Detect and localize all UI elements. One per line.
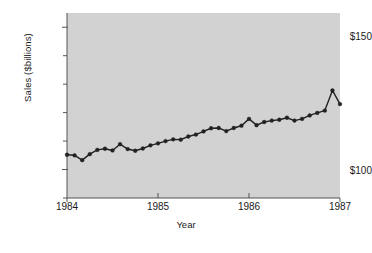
sales-line-chart: Sales ($billions) $150 $100 1984 1985 19… <box>0 0 372 253</box>
plot-background <box>67 13 340 198</box>
plot-area <box>0 0 372 253</box>
